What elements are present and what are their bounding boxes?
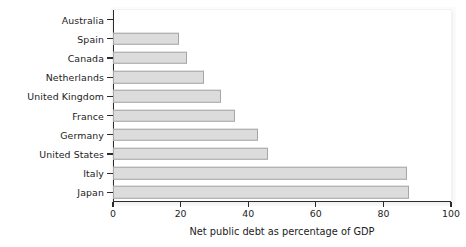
bar	[113, 167, 407, 180]
bar-row	[113, 183, 451, 202]
y-axis-tick-label: Spain	[77, 33, 104, 44]
y-axis-tick-row: United States	[0, 144, 113, 163]
bar-row	[113, 10, 451, 29]
bar-row	[113, 125, 451, 144]
bar-row	[113, 164, 451, 183]
x-axis-title: Net public debt as percentage of GDP	[113, 226, 451, 237]
y-axis-tick-row: Spain	[0, 29, 113, 48]
y-axis-tick-row: United Kingdom	[0, 87, 113, 106]
bar	[113, 148, 268, 161]
y-axis-tick-row: Australia	[0, 10, 113, 29]
x-tick-mark	[383, 202, 384, 207]
x-axis-tick-label: 40	[242, 208, 254, 219]
y-axis-tick-row: Japan	[0, 183, 113, 202]
bar-row	[113, 68, 451, 87]
bar-row	[113, 48, 451, 67]
y-axis-tick-label: United States	[39, 148, 104, 159]
x-tick-mark	[248, 202, 249, 207]
bar-chart-figure: AustraliaSpainCanadaNetherlandsUnited Ki…	[0, 0, 466, 247]
x-axis-tick-label: 100	[442, 208, 460, 219]
bar	[113, 186, 409, 199]
bar	[113, 33, 179, 46]
y-axis-tick-label: Canada	[68, 52, 104, 63]
y-axis-tick-label: Italy	[83, 168, 104, 179]
bar-row	[113, 29, 451, 48]
bar	[113, 52, 187, 65]
bar	[113, 109, 235, 122]
y-axis-tick-row: Canada	[0, 48, 113, 67]
x-tick-mark	[450, 202, 451, 207]
x-tick-mark	[112, 202, 113, 207]
y-axis-tick-label: United Kingdom	[27, 91, 104, 102]
bar-row	[113, 144, 451, 163]
y-axis-tick-row: Germany	[0, 125, 113, 144]
y-axis-tick-label: Netherlands	[46, 72, 104, 83]
y-axis-tick-row: Netherlands	[0, 68, 113, 87]
y-axis-tick-row: France	[0, 106, 113, 125]
y-axis-tick-row: Italy	[0, 164, 113, 183]
bar	[113, 90, 221, 103]
x-axis-tick-label: 80	[377, 208, 389, 219]
y-axis-tick-label: France	[72, 110, 104, 121]
y-axis-tick-label: Australia	[62, 14, 104, 25]
y-axis-tick-label: Germany	[60, 129, 104, 140]
bar-row	[113, 106, 451, 125]
x-tick-mark	[315, 202, 316, 207]
x-axis-tick-label: 0	[110, 208, 116, 219]
bar	[113, 71, 204, 84]
bar-row	[113, 87, 451, 106]
y-axis-tick-label: Japan	[77, 187, 104, 198]
x-tick-mark	[180, 202, 181, 207]
x-axis-tick-label: 20	[175, 208, 187, 219]
bar	[113, 129, 258, 142]
x-axis-tick-label: 60	[310, 208, 322, 219]
